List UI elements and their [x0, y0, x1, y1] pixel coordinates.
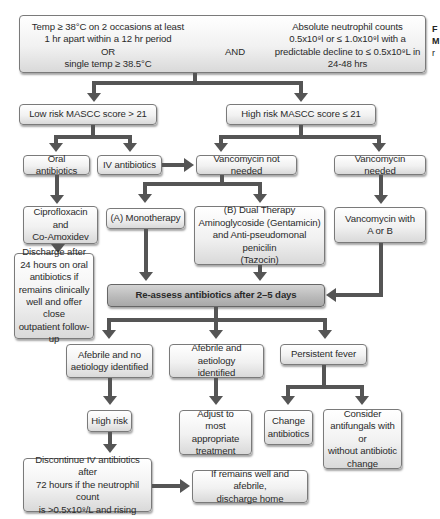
- arrow-down-icon: [372, 143, 386, 152]
- text-line: well and offer close: [18, 296, 90, 321]
- connector: [322, 365, 326, 387]
- arrow-down-icon: [318, 330, 332, 339]
- connector: [152, 484, 181, 488]
- arrow-down-icon: [355, 396, 369, 405]
- discharge-oral-box: Discharge after 24 hours on oral antibio…: [14, 253, 94, 339]
- text-line: single temp ≥ 38.5°C: [28, 58, 188, 70]
- text-line: and Anti-pseudomonal penicilin: [198, 229, 321, 254]
- connector: [214, 378, 218, 396]
- connector: [379, 243, 383, 297]
- text-line: Adjust to: [197, 408, 233, 420]
- text-line: antibiotics if: [30, 271, 79, 283]
- text-line: treatment: [196, 445, 236, 457]
- connector: [162, 163, 184, 167]
- connector: [286, 385, 290, 396]
- text-line: Change: [272, 415, 305, 427]
- text-line: Consider: [344, 408, 382, 420]
- text-line: A or B: [367, 225, 393, 237]
- connector: [379, 175, 383, 195]
- text-line: discharge home: [217, 493, 284, 505]
- arrow-down-icon: [123, 143, 137, 152]
- text-line: outpatient follow-up: [18, 321, 90, 346]
- connector: [92, 81, 302, 85]
- side-caption-line-1: F: [432, 24, 438, 34]
- persistent-fever-box: Persistent fever: [280, 344, 367, 365]
- afebrile-aetiology-box: Afebrile and aetiology identified: [169, 344, 264, 378]
- arrow-down-icon: [139, 272, 153, 281]
- text-line: predictable decline to ≤ 0.5x10⁹L in: [270, 46, 425, 58]
- arrow-down-icon: [214, 143, 228, 152]
- reassess-box: Re-assess antibiotics after 2–5 days: [107, 284, 325, 307]
- dual-therapy-box: (B) Dual Therapy Aminoglycoside (Gentami…: [194, 206, 325, 265]
- text-line: remains clinically: [19, 284, 90, 296]
- temperature-criteria: Temp ≥ 38°C on 2 occasions at least 1 hr…: [28, 21, 188, 71]
- connector: [214, 318, 218, 330]
- connector: [54, 135, 132, 139]
- text-line: is >0.5x10⁹/L and rising: [39, 504, 137, 516]
- arrow-down-icon: [209, 396, 223, 405]
- arrow-down-icon: [49, 143, 63, 152]
- arrow-down-icon: [209, 330, 223, 339]
- arrow-down-icon: [103, 444, 117, 453]
- arrow-down-icon: [138, 194, 152, 203]
- text-line: OR: [28, 46, 188, 58]
- monotherapy-box: (A) Monotherapy: [106, 208, 185, 229]
- arrow-down-icon: [374, 195, 388, 204]
- text-line: most appropriate: [183, 420, 248, 445]
- text-line: 0.5x10⁹l or ≤ 1.0x10⁹l with a: [270, 33, 425, 45]
- connector: [258, 182, 262, 194]
- text-line: Discharge after: [22, 246, 86, 258]
- vancomycin-needed-box: Vancomycin needed: [334, 155, 426, 175]
- text-line: 1 hr apart within a 12 hr period: [28, 33, 188, 45]
- consider-antifungals-box: Consider antifungals with or without ant…: [323, 409, 402, 469]
- text-line: antifungals with or: [327, 420, 398, 445]
- arrow-right-icon: [180, 479, 190, 493]
- text-line: Aminoglycoside (Gentamicin): [198, 217, 320, 229]
- connector: [108, 432, 112, 444]
- text-line: 72 hours if the neutrophil count: [27, 479, 148, 504]
- connector: [92, 81, 96, 93]
- text-line: Co-Amoxidev: [32, 231, 88, 243]
- connector: [108, 378, 112, 396]
- connector: [144, 229, 148, 273]
- text-line: Afebrile and aetiology: [173, 342, 260, 367]
- text-line: without antibiotic: [328, 445, 397, 457]
- connector: [143, 182, 262, 186]
- connector: [143, 182, 147, 194]
- text-line: Discontinue IV antibiotics after: [27, 454, 148, 479]
- connector: [299, 81, 303, 93]
- adjust-treatment-box: Adjust to most appropriate treatment: [179, 410, 252, 455]
- text-line: Temp ≥ 38°C on 2 occasions at least: [28, 21, 188, 33]
- high-risk-box: High risk MASCC score ≤ 21: [226, 104, 376, 125]
- connector: [360, 385, 364, 396]
- iv-antibiotics-box: IV antibiotics: [97, 155, 162, 175]
- low-risk-box: Low risk MASCC score > 21: [19, 104, 157, 125]
- and-connector: AND: [225, 46, 245, 58]
- vancomycin-with-box: Vancomycin with A or B: [334, 207, 426, 243]
- text-line: 24 hours on oral: [20, 259, 88, 271]
- arrow-down-icon: [50, 195, 64, 204]
- change-antibiotics-box: Change antibiotics: [264, 410, 313, 445]
- connector: [55, 175, 59, 196]
- arrow-down-icon: [253, 272, 267, 281]
- text-line: aetiology identified: [71, 361, 148, 373]
- arrow-right-icon: [184, 158, 194, 172]
- neutrophil-criteria: Absolute neutrophil counts 0.5x10⁹l or ≤…: [270, 21, 425, 71]
- text-line: Vancomycin with: [345, 213, 415, 225]
- text-line: If remains well and afebrile,: [196, 468, 304, 493]
- high-risk-outcome-box: High risk: [87, 410, 132, 432]
- text-line: Absolute neutrophil counts: [270, 21, 425, 33]
- text-line: (B) Dual Therapy: [224, 204, 295, 216]
- connector: [219, 135, 381, 139]
- text-line: antibiotics: [268, 428, 310, 440]
- afebrile-no-aetiology-box: Afebrile and no aetiology identified: [66, 344, 153, 378]
- side-caption-line-2: M: [432, 36, 440, 46]
- ciprofloxacin-box: Ciprofloxacin and Co-Amoxidev: [23, 206, 98, 244]
- text-line: Ciprofloxacin and: [27, 206, 94, 231]
- connector: [336, 293, 383, 297]
- oral-antibiotics-box: Oral antibiotics: [23, 155, 90, 175]
- text-line: 24-48 hrs: [270, 58, 425, 70]
- entry-criteria-box: Temp ≥ 38°C on 2 occasions at least 1 hr…: [19, 15, 426, 73]
- arrow-down-icon: [253, 194, 267, 203]
- text-line: Afebrile and no: [78, 349, 141, 361]
